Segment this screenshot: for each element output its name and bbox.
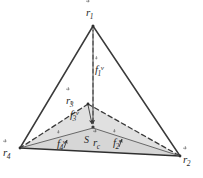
vertex-dot-r4 — [19, 147, 22, 150]
label-f4v: f 4v — [57, 134, 66, 151]
vertex-dot-r3 — [87, 103, 90, 106]
label-s: S — [84, 135, 89, 145]
label-r4-subscript: 4 — [7, 152, 11, 161]
label-rc-symbol: r — [93, 136, 97, 148]
label-f1v: f 1v — [95, 60, 104, 77]
vector-glyph-r2: r — [183, 150, 187, 166]
vector-glyph-f1v: f — [95, 60, 98, 76]
label-r1-subscript: 1 — [90, 12, 94, 21]
vector-glyph-r4: r — [3, 143, 7, 159]
label-f2v: f 2v — [113, 133, 122, 150]
label-r1: r 1 — [86, 3, 94, 20]
vertex-dot-r2 — [179, 155, 182, 158]
label-f1v-symbol: f — [95, 63, 98, 75]
label-r2-subscript: 2 — [187, 159, 191, 168]
label-f3v-superscript: v — [76, 109, 79, 117]
label-f4v-superscript: v — [63, 138, 66, 146]
label-r1-symbol: r — [86, 6, 90, 18]
label-f3v: f 3v — [70, 105, 79, 122]
label-r2-symbol: r — [183, 153, 187, 165]
vector-glyph-rc: r — [93, 133, 97, 149]
vector-glyph-r1: r — [86, 3, 90, 19]
vector-glyph-f3v: f — [70, 105, 73, 121]
tetrahedron-figure: r 1 r 3 r 4 — [0, 0, 203, 178]
vector-glyph-f2v: f — [113, 133, 116, 149]
label-f3v-symbol: f — [70, 108, 73, 120]
label-r4-symbol: r — [3, 146, 7, 158]
vertex-dot-r1 — [92, 25, 95, 28]
label-f1v-superscript: v — [101, 64, 104, 72]
label-r2: r 2 — [183, 150, 191, 167]
label-r4: r 4 — [3, 143, 11, 160]
centroid-dot — [91, 125, 94, 128]
label-f2v-superscript: v — [119, 137, 122, 145]
label-rc-subscript: c — [97, 142, 100, 151]
label-f2v-symbol: f — [113, 136, 116, 148]
label-rc: r c — [93, 133, 100, 150]
tetrahedron-drawing — [0, 0, 203, 178]
vector-glyph-f4v: f — [57, 134, 60, 150]
label-f4v-symbol: f — [57, 137, 60, 149]
